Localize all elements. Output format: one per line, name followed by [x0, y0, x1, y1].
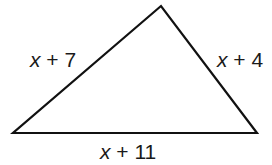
operator: +	[116, 140, 128, 163]
side-label-bottom: x + 11	[100, 141, 156, 162]
constant: 7	[64, 48, 76, 71]
operator: +	[46, 48, 58, 71]
constant: 11	[134, 140, 156, 163]
variable: x	[100, 140, 111, 163]
side-label-left: x + 7	[30, 49, 76, 70]
variable: x	[30, 48, 41, 71]
constant: 4	[251, 48, 263, 71]
variable: x	[217, 48, 228, 71]
triangle-diagram: x + 7 x + 4 x + 11	[0, 0, 272, 165]
operator: +	[233, 48, 245, 71]
side-label-right: x + 4	[217, 49, 263, 70]
